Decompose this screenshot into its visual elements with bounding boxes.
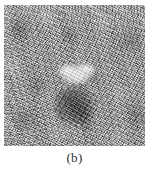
figure-container: (b): [0, 0, 149, 171]
figure-caption: (b): [0, 150, 149, 166]
speckle-image-panel: [4, 5, 145, 146]
bright-blob-speckle: [56, 61, 98, 85]
